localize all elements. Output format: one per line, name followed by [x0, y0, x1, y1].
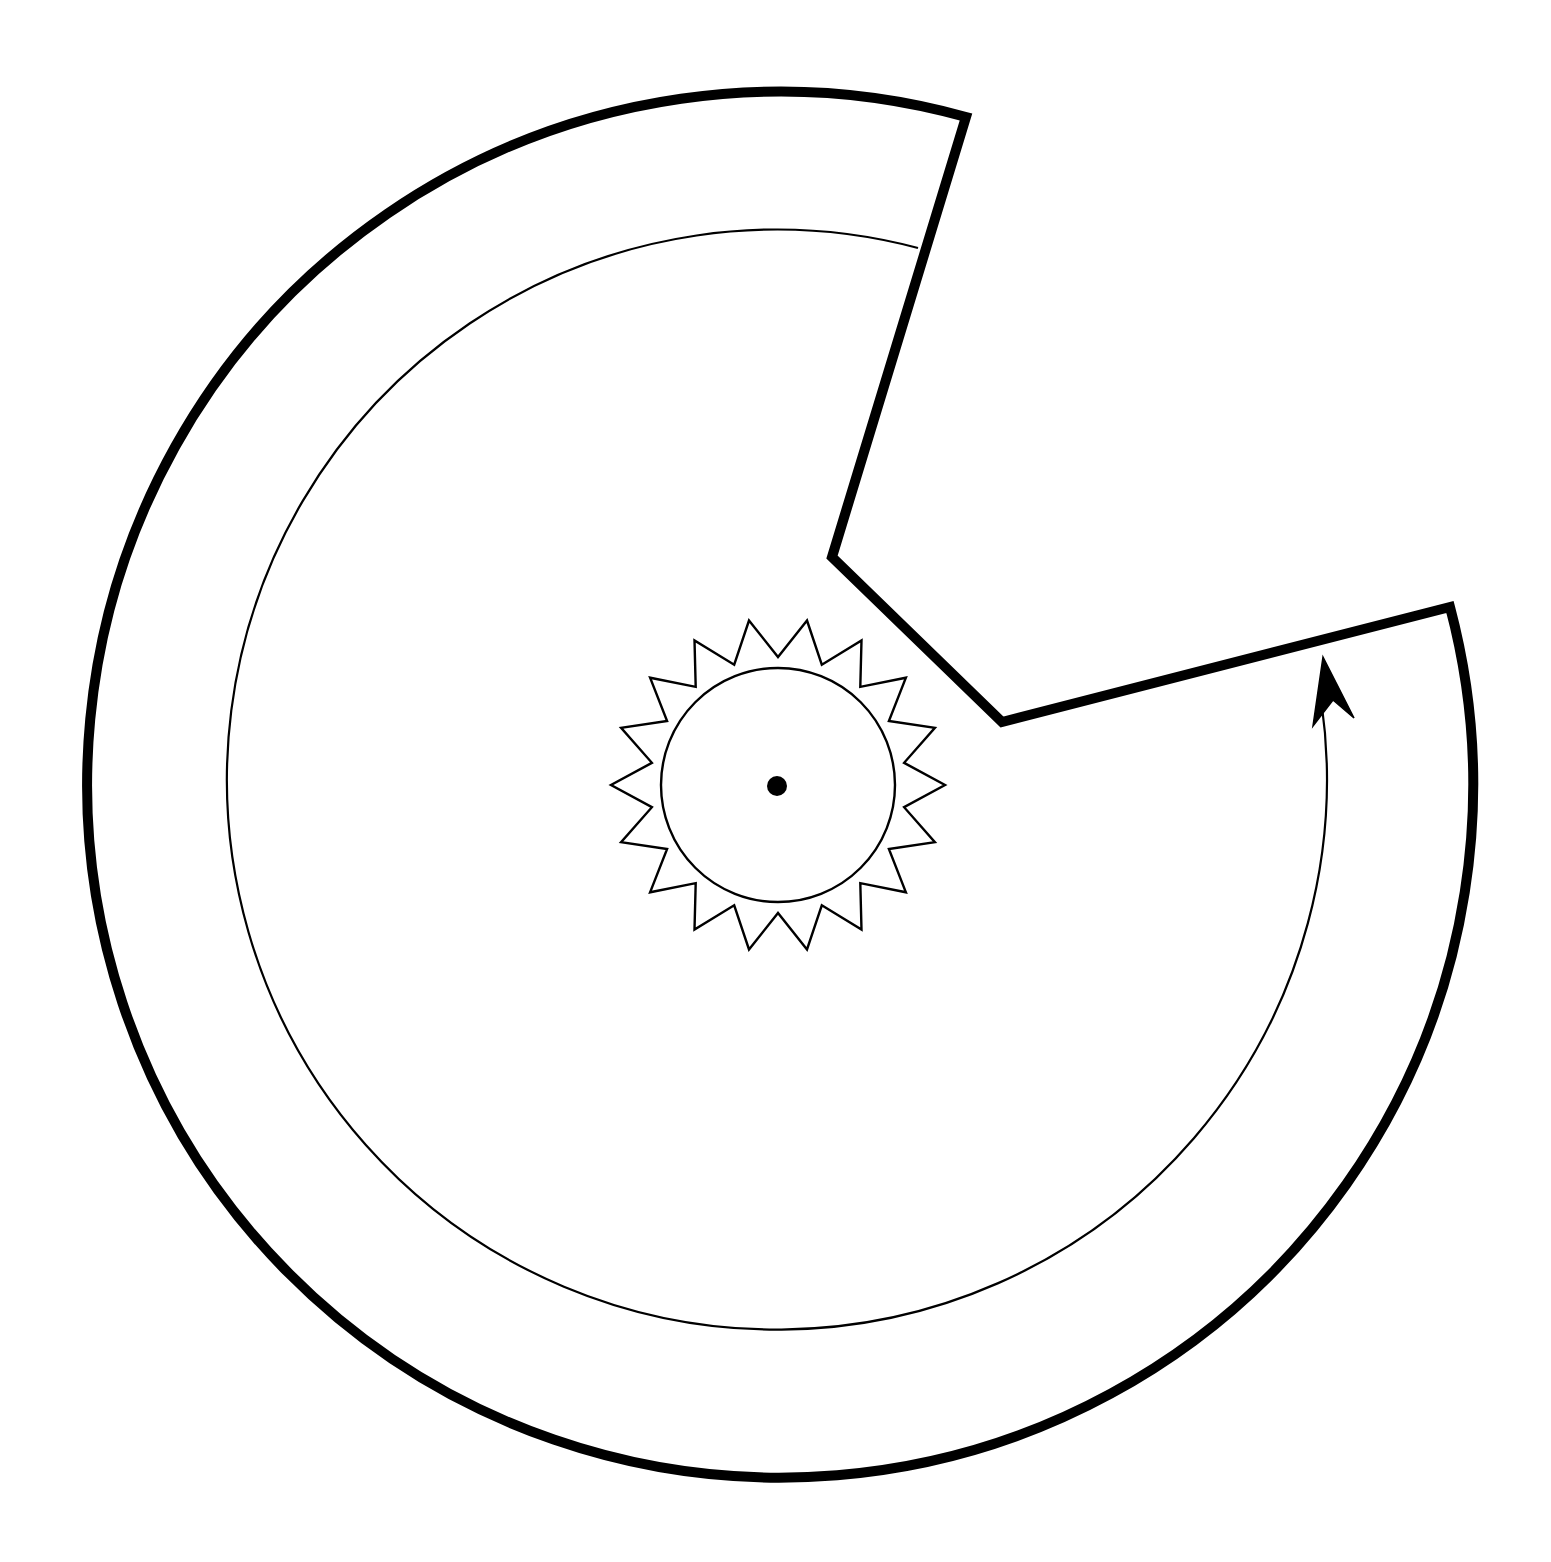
center-dot — [767, 776, 787, 796]
diagram-canvas — [0, 0, 1551, 1562]
